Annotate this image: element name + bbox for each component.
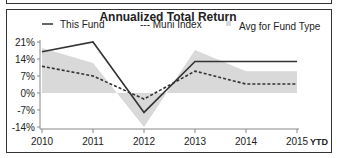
x-tick-labels: 201020112012201320142015 bbox=[31, 136, 309, 147]
legend-avg-marker bbox=[226, 21, 231, 26]
y-tick-labels: 21%14%7%0%-7%-14% bbox=[12, 37, 35, 133]
legend-avg-fund-type: Avg for Fund Type bbox=[239, 21, 321, 32]
y-tick-label: 7% bbox=[21, 71, 36, 82]
x-tick-label: 2013 bbox=[184, 136, 207, 147]
y-tick-label: 21% bbox=[15, 37, 35, 48]
ytd-label: YTD bbox=[310, 137, 329, 147]
legend-muni-index: --- Muni Index bbox=[140, 19, 202, 30]
y-tick-label: -14% bbox=[12, 122, 35, 133]
y-tick-label: -7% bbox=[17, 105, 35, 116]
legend-this-fund: This Fund bbox=[60, 19, 104, 30]
x-tick-label: 2011 bbox=[82, 136, 104, 147]
y-tick-label: 0% bbox=[21, 88, 36, 99]
x-tick-label: 2010 bbox=[31, 136, 54, 147]
x-tick-label: 2015 bbox=[286, 136, 309, 147]
annualized-return-chart: Annualized Total Return This Fund --- Mu… bbox=[0, 0, 338, 158]
legend: This Fund --- Muni Index Avg for Fund Ty… bbox=[42, 19, 321, 32]
y-tick-label: 14% bbox=[15, 54, 35, 65]
x-tick-label: 2014 bbox=[235, 136, 258, 147]
x-tick-label: 2012 bbox=[133, 136, 156, 147]
